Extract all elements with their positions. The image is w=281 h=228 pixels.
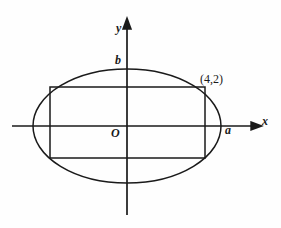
x-axis-label: x xyxy=(262,115,268,127)
corner-point-label: (4,2) xyxy=(200,73,223,85)
semi-major-vertex-label-a: a xyxy=(225,124,231,136)
y-axis-label: y xyxy=(116,22,121,34)
figure-canvas: y x b a O (4,2) xyxy=(0,0,281,228)
origin-label: O xyxy=(111,127,120,139)
semi-minor-vertex-label-b: b xyxy=(115,54,121,66)
ellipse-rectangle-diagram xyxy=(0,0,281,228)
